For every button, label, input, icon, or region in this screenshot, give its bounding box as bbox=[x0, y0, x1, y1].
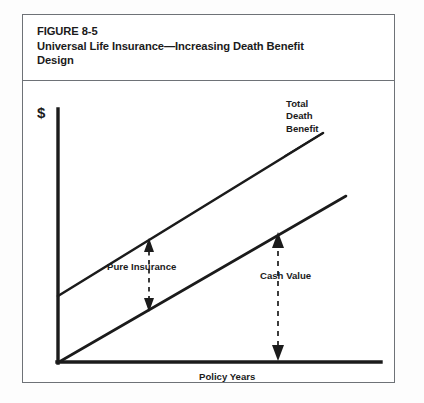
chart-plot-area: $ Total Death Benefit Pure Insurance Cas… bbox=[23, 81, 394, 382]
figure-caption: FIGURE 8-5 Universal Life Insurance—Incr… bbox=[23, 15, 394, 81]
figure-frame: FIGURE 8-5 Universal Life Insurance—Incr… bbox=[22, 14, 395, 383]
figure-root: FIGURE 8-5 Universal Life Insurance—Incr… bbox=[0, 0, 424, 403]
total-death-benefit-label-line-3: Benefit bbox=[286, 123, 319, 135]
pure-insurance-arrow bbox=[144, 238, 154, 312]
y-axis-label: $ bbox=[37, 107, 45, 119]
total-death-benefit-leader bbox=[285, 133, 323, 156]
total-death-benefit-label: Total Death Benefit bbox=[286, 98, 319, 135]
figure-title-line-2: Design bbox=[37, 53, 380, 68]
pure-insurance-label: Pure Insurance bbox=[107, 261, 176, 273]
cash-value-label: Cash Value bbox=[260, 270, 311, 282]
total-death-benefit-label-line-2: Death bbox=[286, 110, 319, 122]
chart-graphics bbox=[23, 81, 394, 382]
chart-axes bbox=[57, 109, 381, 363]
total-death-benefit-label-line-1: Total bbox=[286, 98, 319, 110]
figure-number: FIGURE 8-5 bbox=[37, 24, 380, 39]
cash-value-arrow bbox=[272, 232, 284, 361]
x-axis-label: Policy Years bbox=[199, 371, 255, 382]
figure-title-line-1: Universal Life Insurance—Increasing Deat… bbox=[37, 39, 380, 54]
